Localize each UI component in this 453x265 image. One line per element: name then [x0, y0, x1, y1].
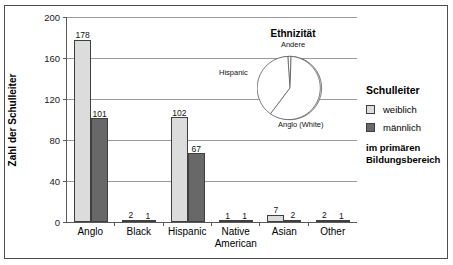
bar-value-native-american-maennlich: 1 [242, 212, 247, 221]
legend: Schulleiter weiblich männlich im primäre… [366, 84, 450, 166]
pie-title: Ethnizität [232, 28, 354, 39]
xtick-label-native-american: Native American [212, 226, 261, 249]
pie-chart-svg [257, 55, 323, 121]
xtick-label-anglo: Anglo [66, 226, 115, 249]
legend-title: Schulleiter [366, 84, 450, 96]
xtick-label-asian: Asian [260, 226, 309, 249]
x-axis-labels: Anglo Black Hispanic Native American Asi… [66, 226, 357, 249]
bar-asian-maennlich[interactable]: 2 [284, 220, 301, 222]
bar-hispanic-weiblich[interactable]: 102 [171, 117, 188, 222]
bar-value-native-american-weiblich: 1 [225, 212, 230, 221]
ytick-label-40: 40 [49, 176, 60, 187]
legend-label-weiblich: weiblich [383, 104, 417, 115]
bar-pair-anglo: 178 101 [74, 17, 108, 222]
bar-pair-black: 2 1 [122, 17, 156, 222]
xtick-label-other: Other [309, 226, 358, 249]
legend-note: im primären Bildungsbereich [366, 142, 450, 166]
chart-figure: Zahl der Schulleiter 200 160 120 80 40 0 [0, 0, 453, 265]
bar-native-american-weiblich[interactable]: 1 [219, 220, 236, 222]
xtick-label-black: Black [115, 226, 164, 249]
bar-value-other-weiblich: 2 [322, 211, 327, 220]
bar-anglo-maennlich[interactable]: 101 [91, 118, 108, 222]
pie-slice-label-anglo: Anglo (White) [278, 120, 323, 129]
ytick-label-80: 80 [49, 135, 60, 146]
bar-group-black: 2 1 [115, 17, 163, 222]
pie-slice-label-andere: Andere [281, 40, 305, 49]
bar-other-weiblich[interactable]: 2 [316, 220, 333, 222]
bar-value-black-maennlich: 1 [146, 212, 151, 221]
bar-asian-weiblich[interactable]: 7 [267, 215, 284, 222]
legend-item-maennlich[interactable]: männlich [366, 122, 450, 133]
ytick-mark-0 [63, 222, 67, 223]
bar-value-asian-weiblich: 7 [274, 206, 279, 215]
bar-value-hispanic-weiblich: 102 [172, 109, 186, 118]
bar-hispanic-maennlich[interactable]: 67 [188, 153, 205, 222]
ytick-label-120: 120 [44, 94, 60, 105]
ytick-label-200: 200 [44, 12, 60, 23]
bar-value-anglo-maennlich: 101 [93, 110, 107, 119]
bar-value-other-maennlich: 1 [339, 212, 344, 221]
y-axis-title: Zahl der Schulleiter [7, 74, 18, 167]
pie-inset: Ethnizität Andere Hispanic Anglo (White) [232, 28, 354, 128]
bar-value-black-weiblich: 2 [129, 211, 134, 220]
legend-item-weiblich[interactable]: weiblich [366, 104, 450, 115]
bar-native-american-maennlich[interactable]: 1 [236, 220, 253, 222]
ytick-label-160: 160 [44, 53, 60, 64]
legend-note-line1: im primären [366, 142, 450, 154]
bar-value-asian-maennlich: 2 [291, 211, 296, 220]
ytick-label-0: 0 [55, 217, 60, 228]
xtick-label-hispanic: Hispanic [163, 226, 212, 249]
legend-swatch-maennlich [366, 123, 375, 132]
bar-value-anglo-weiblich: 178 [76, 31, 90, 40]
legend-label-maennlich: männlich [383, 122, 421, 133]
bar-other-maennlich[interactable]: 1 [333, 220, 350, 222]
bar-anglo-weiblich[interactable]: 178 [74, 40, 91, 222]
bar-black-weiblich[interactable]: 2 [122, 220, 139, 222]
bar-black-maennlich[interactable]: 1 [139, 220, 156, 222]
bar-pair-hispanic: 102 67 [171, 17, 205, 222]
pie-slice-label-hispanic: Hispanic [219, 68, 248, 77]
bar-value-hispanic-maennlich: 67 [192, 145, 201, 154]
legend-swatch-weiblich [366, 105, 375, 114]
bar-group-anglo: 178 101 [67, 17, 115, 222]
bar-group-hispanic: 102 67 [164, 17, 212, 222]
legend-note-line2: Bildungsbereich [366, 154, 450, 166]
